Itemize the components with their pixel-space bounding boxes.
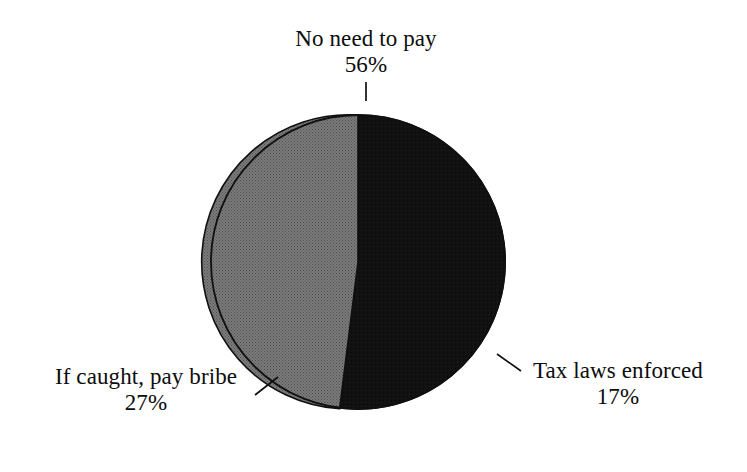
slice-label-percent: 27%	[22, 390, 270, 416]
slice-label-text: Tax laws enforced	[533, 358, 703, 383]
slice-label-text: If caught, pay bribe	[55, 364, 237, 389]
slice-label-if-caught-pay-bribe: If caught, pay bribe 27%	[22, 364, 270, 416]
slice-label-tax-laws-enforced: Tax laws enforced 17%	[500, 358, 736, 410]
slice-label-percent: 17%	[500, 384, 736, 410]
slice-label-text: No need to pay	[295, 26, 436, 51]
slice-label-percent: 56%	[228, 52, 504, 78]
slice-label-no-need-to-pay: No need to pay 56%	[228, 26, 504, 78]
pie-chart-figure: No need to pay 56% Tax laws enforced 17%…	[0, 0, 747, 472]
